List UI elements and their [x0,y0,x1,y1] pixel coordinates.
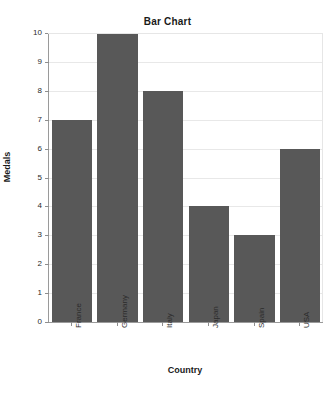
y-axis-tick-mark [45,91,49,92]
y-axis-tick-label-group: 012345678910 [0,33,42,322]
x-axis-tick-label-usa: USA [303,312,311,328]
gridline [49,62,323,63]
x-axis-tick-mark [254,322,255,326]
x-axis-tick-mark [117,322,118,326]
x-axis-tick-label-france: France [75,303,83,328]
x-axis-tick-label-japan: Japan [212,306,220,328]
y-axis-tick-label: 3 [8,231,42,239]
y-axis-tick-label: 1 [8,289,42,297]
plot-frame-right-edge [322,33,323,322]
y-axis-tick-mark [45,264,49,265]
y-axis-tick-mark [45,62,49,63]
y-axis-tick-label: 9 [8,58,42,66]
x-axis-title: Country [48,365,322,376]
y-axis-tick-mark [45,149,49,150]
y-axis-tick-mark [45,120,49,121]
y-axis-tick-mark [45,178,49,179]
x-axis-tick-label-spain: Spain [258,308,266,328]
y-axis-tick-label: 6 [8,145,42,153]
plot-area [48,33,323,323]
y-axis-tick-label: 7 [8,116,42,124]
bar-italy [143,91,184,322]
y-axis-tick-mark [45,322,49,323]
y-axis-tick-label: 4 [8,202,42,210]
bar-germany [97,33,138,322]
x-axis-tick-label-germany: Germany [121,295,129,328]
y-axis-tick-label: 5 [8,174,42,182]
x-axis-tick-mark [162,322,163,326]
y-axis-tick-label: 10 [8,29,42,37]
gridline [49,91,323,92]
bar-japan [189,206,230,322]
x-axis-tick-mark [71,322,72,326]
plot-frame-top-edge [48,33,322,34]
y-axis-tick-label: 0 [8,318,42,326]
bar-usa [280,149,321,322]
y-axis-tick-mark [45,206,49,207]
y-axis-tick-label: 2 [8,260,42,268]
chart-title: Bar Chart [0,16,335,28]
y-axis-tick-mark [45,235,49,236]
bar-france [52,120,93,322]
x-axis-tick-mark [299,322,300,326]
bar-chart-figure: Bar Chart Medals 012345678910 FranceGerm… [0,0,335,394]
x-axis-tick-label-italy: Italy [166,313,174,328]
x-axis-tick-mark [208,322,209,326]
y-axis-tick-label: 8 [8,87,42,95]
y-axis-tick-mark [45,293,49,294]
bar-spain [234,235,275,322]
